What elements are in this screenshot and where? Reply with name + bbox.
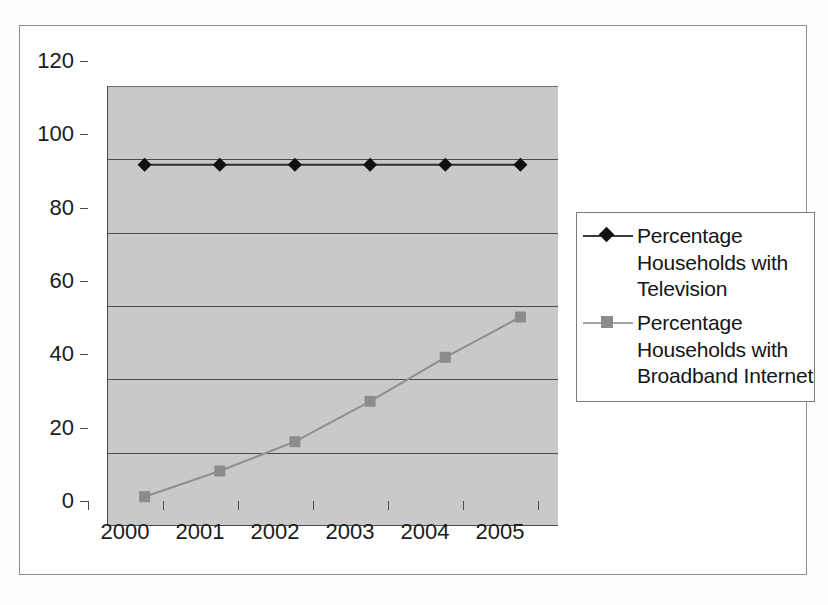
- series-markers-broadband: [139, 312, 526, 503]
- x-axis-label-2004: 2004: [385, 521, 465, 543]
- legend-label-television-line1: Percentage: [637, 223, 788, 250]
- x-tickmark-4: [388, 501, 389, 510]
- x-axis-label-2003: 2003: [310, 521, 390, 543]
- y-tickmark-60: [80, 281, 88, 282]
- x-axis-label-2005: 2005: [460, 521, 540, 543]
- y-tickmark-80: [80, 208, 88, 209]
- legend-label-broadband-line2: Households with: [637, 337, 813, 364]
- y-axis-label-0: 0: [12, 490, 74, 512]
- legend-entry-television[interactable]: Percentage Households with Television: [577, 223, 816, 303]
- legend-label-television-line3: Television: [637, 276, 788, 303]
- y-axis-label-100: 100: [12, 123, 74, 145]
- legend-label-broadband-line3: Broadband Internet: [637, 363, 813, 390]
- legend-key-television: [581, 223, 637, 249]
- legend-label-television: Percentage Households with Television: [637, 223, 788, 303]
- y-tickmark-100: [80, 134, 88, 135]
- y-axis-label-80: 80: [12, 197, 74, 219]
- page-canvas: 120 100 80 60 40 20 0 2000 2001 2002 200…: [0, 0, 828, 605]
- y-tickmark-40: [80, 354, 88, 355]
- x-tickmark-6: [538, 501, 539, 510]
- square-icon: [601, 316, 613, 328]
- x-axis-label-2000: 2000: [85, 521, 165, 543]
- x-tickmark-5: [463, 501, 464, 510]
- x-tickmark-1: [163, 501, 164, 510]
- y-axis-label-60: 60: [12, 270, 74, 292]
- legend-entry-broadband[interactable]: Percentage Households with Broadband Int…: [577, 310, 816, 390]
- legend-label-television-line2: Households with: [637, 250, 788, 277]
- diamond-icon: [601, 229, 612, 240]
- chart-frame: 120 100 80 60 40 20 0 2000 2001 2002 200…: [19, 25, 807, 575]
- chart-legend: Percentage Households with Television Pe…: [576, 212, 815, 402]
- y-axis-label-120: 120: [12, 50, 74, 72]
- x-tickmark-0: [88, 501, 89, 510]
- y-tickmark-0: [80, 501, 88, 502]
- x-axis-label-2002: 2002: [235, 521, 315, 543]
- y-axis-label-20: 20: [12, 417, 74, 439]
- series-overlay: [107, 86, 558, 526]
- x-axis-label-2001: 2001: [160, 521, 240, 543]
- series-line-broadband: [145, 317, 521, 497]
- x-tickmark-2: [238, 501, 239, 510]
- x-tickmark-3: [313, 501, 314, 510]
- y-tickmark-120: [80, 61, 88, 62]
- legend-key-broadband: [581, 310, 637, 336]
- legend-label-broadband-line1: Percentage: [637, 310, 813, 337]
- y-axis-label-40: 40: [12, 343, 74, 365]
- legend-label-broadband: Percentage Households with Broadband Int…: [637, 310, 813, 390]
- y-tickmark-20: [80, 428, 88, 429]
